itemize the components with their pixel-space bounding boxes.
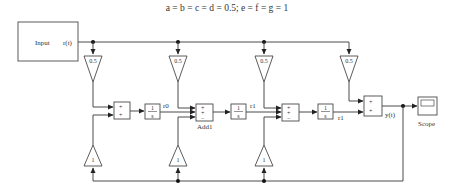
gain-b[interactable]: 0.5 <box>169 56 187 82</box>
scope-block[interactable] <box>418 97 437 115</box>
signal-label-r0: r0 <box>163 102 169 110</box>
gain-f[interactable]: 1 <box>169 145 187 166</box>
junction-dot <box>176 179 180 183</box>
junction-dot <box>262 179 266 183</box>
svg-text:1: 1 <box>92 157 95 163</box>
sum-block-1[interactable]: + + <box>114 102 130 119</box>
svg-text:1: 1 <box>237 105 240 111</box>
diagram-title: a = b = c = d = 0.5; e = f = g = 1 <box>166 3 289 13</box>
svg-text:1: 1 <box>263 157 266 163</box>
gain-a[interactable]: 0.5 <box>84 56 102 82</box>
add1-label: Add1 <box>197 123 213 131</box>
gain-g[interactable]: 1 <box>255 145 273 166</box>
gain-e[interactable]: 1 <box>84 145 102 166</box>
sum-block-4[interactable]: + + <box>364 96 382 116</box>
output-label: y(t) <box>385 111 396 119</box>
wire <box>178 82 195 108</box>
gain-d[interactable]: 0.5 <box>340 56 358 82</box>
wire <box>264 117 281 145</box>
signal-label-r1: r1 <box>250 102 256 110</box>
input-label: Input <box>35 39 50 47</box>
gain-c[interactable]: 0.5 <box>255 56 273 82</box>
add1-block[interactable]: + + − <box>196 104 213 121</box>
svg-text:0.5: 0.5 <box>89 58 97 64</box>
wire <box>264 82 281 108</box>
input-port-label: r(t) <box>63 39 73 47</box>
wire <box>93 82 113 107</box>
wire <box>93 115 113 145</box>
integrator-1[interactable]: 1 s <box>145 104 160 119</box>
signal-label-r1-out: r1 <box>338 114 344 122</box>
svg-text:0.5: 0.5 <box>260 58 268 64</box>
integrator-2[interactable]: 1 s <box>231 104 246 119</box>
block-diagram: a = b = c = d = 0.5; e = f = g = 1 Input… <box>0 0 455 194</box>
svg-text:0.5: 0.5 <box>174 58 182 64</box>
integrator-3[interactable]: 1 s <box>318 104 333 119</box>
input-block[interactable]: Input r(t) <box>18 22 78 61</box>
wire <box>178 117 195 145</box>
input-wire <box>78 42 349 54</box>
svg-text:1: 1 <box>324 105 327 111</box>
svg-text:1: 1 <box>151 105 154 111</box>
scope-label: Scope <box>418 120 435 128</box>
feedback-wire <box>93 106 403 181</box>
svg-text:0.5: 0.5 <box>345 58 353 64</box>
svg-text:1: 1 <box>177 157 180 163</box>
wire <box>349 82 363 101</box>
sum-block-3[interactable]: + + − <box>282 104 299 121</box>
